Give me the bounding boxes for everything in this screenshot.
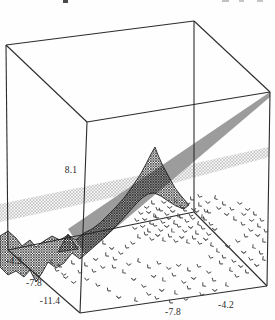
scatter-marker [137, 258, 142, 263]
scatter-marker [142, 216, 147, 221]
x-axis-tick-label-1: -7.8 [165, 307, 181, 317]
scatter-marker [105, 252, 110, 257]
scatter-marker [257, 223, 262, 227]
scatter-marker [126, 261, 131, 265]
scatter-marker [93, 256, 98, 261]
scatter-marker [260, 218, 264, 221]
axes-box-edge [6, 21, 194, 45]
scatter-marker [197, 221, 202, 226]
scatter-marker [177, 224, 182, 227]
scatter-marker [100, 265, 105, 269]
scatter-marker [132, 225, 137, 229]
scatter-marker [151, 273, 156, 278]
scatter-marker [216, 206, 221, 210]
scatter-marker [201, 226, 206, 230]
scatter-marker [202, 282, 207, 287]
scatter-marker [249, 257, 254, 261]
scatter-marker [168, 234, 173, 238]
scatter-marker [262, 238, 267, 243]
scatter-marker [236, 239, 241, 243]
scatter-marker [71, 260, 76, 264]
scatter-marker [232, 259, 237, 263]
scatter-marker [253, 211, 258, 215]
scatter-marker [198, 194, 202, 197]
scatter-marker [151, 200, 156, 204]
scatter-marker [113, 257, 118, 261]
scatter-marker [192, 236, 197, 240]
scatter-marker [255, 232, 260, 237]
scatter-marker [139, 211, 144, 215]
scatter-marker [185, 219, 189, 222]
scatter-marker [222, 255, 227, 259]
scatter-marker [182, 280, 187, 284]
scatter-marker [205, 199, 210, 203]
scatter-marker [161, 199, 166, 203]
scatter-marker [165, 212, 170, 216]
scatter-marker [150, 237, 155, 241]
scatter-marker [112, 265, 117, 269]
scatter-marker [183, 229, 188, 233]
scatter-marker [225, 282, 230, 287]
scatter-marker [245, 206, 250, 211]
scatter-marker [140, 223, 145, 228]
scatter-marker [235, 274, 239, 277]
scatter-marker [153, 223, 157, 226]
scatter-marker [241, 222, 246, 226]
scatter-marker [176, 262, 181, 267]
scatter-marker [241, 211, 246, 215]
scatter-marker [171, 228, 176, 233]
axes-box-edge [267, 92, 270, 286]
scatter-marker [159, 208, 164, 212]
scatter-marker [84, 276, 89, 280]
scatter-marker [191, 275, 196, 280]
scatter-marker [188, 224, 193, 229]
scatter-marker [209, 255, 214, 258]
scatter-marker [142, 284, 147, 288]
scatter-marker [187, 286, 192, 290]
scatter-marker [224, 211, 229, 216]
scatter-marker [198, 241, 203, 245]
scatter-marker [179, 234, 184, 239]
scatter-marker [159, 287, 164, 292]
scatter-marker [245, 270, 250, 274]
scatter-marker [170, 208, 175, 213]
scatter-marker [96, 283, 101, 287]
scatter-marker [144, 204, 149, 209]
scatter-marker [147, 228, 152, 232]
y-axis-tick-label-2: -7.8 [26, 278, 42, 288]
scatter-marker [162, 237, 167, 242]
scatter-marker [259, 251, 264, 255]
axes-box-edge [194, 212, 267, 286]
scatter-marker [212, 287, 217, 292]
scatter-marker [203, 216, 208, 220]
scatter-marker [207, 210, 212, 214]
scatter-marker [249, 228, 254, 232]
scatter-marker [146, 209, 151, 214]
figure-3d-regression-plot: 8.1 -4.2 -7.8 -11.4 -7.8 -4.2 [0, 0, 275, 320]
scatter-marker [102, 240, 107, 245]
scatter-marker [237, 200, 242, 204]
y-axis-tick-label-1: -4.2 [6, 256, 22, 266]
scatter-marker [137, 234, 142, 239]
scatter-marker [206, 269, 211, 273]
scatter-marker [167, 204, 172, 209]
scatter-marker [107, 288, 112, 292]
scatter-marker [61, 271, 66, 275]
scatter-marker [131, 241, 136, 245]
scatter-marker [203, 236, 208, 241]
scatter-marker [229, 267, 234, 272]
scatter-marker [214, 195, 219, 200]
scatter-marker [147, 292, 152, 296]
scatter-marker [164, 223, 169, 228]
scatter-marker [162, 277, 167, 282]
scatter-marker [244, 234, 249, 238]
scatter-marker [254, 262, 259, 267]
scatter-marker [187, 267, 192, 271]
scatter-marker [158, 227, 163, 231]
scatter-marker [119, 251, 124, 255]
scatter-marker [249, 217, 254, 222]
x-axis-tick-label-2: -4.2 [218, 300, 234, 310]
scatter-marker [238, 263, 243, 268]
scatter-marker [71, 279, 76, 284]
scatter-marker [109, 245, 114, 250]
